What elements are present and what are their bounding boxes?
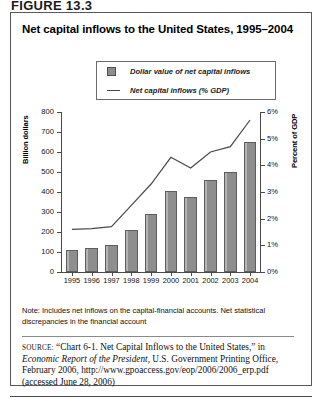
y-tick-label-left: 500: [30, 168, 54, 176]
square-swatch-icon: [107, 67, 122, 76]
y-tick-label-right: 5%: [267, 135, 289, 143]
chart-legend: Dollar value of net capital inflows Net …: [96, 61, 276, 100]
y-tick-label-left: 300: [30, 208, 54, 216]
source-text-1: “Chart 6-1. Net Capital Inflows to the U…: [56, 342, 265, 352]
y-tick-label-right: 3%: [267, 188, 289, 196]
chart-plot: Billion dollars Percent of GDP 010020030…: [22, 106, 302, 296]
y-tick-label-right: 6%: [267, 108, 289, 116]
chart-source: SOURCE: “Chart 6-1. Net Capital Inflows …: [22, 342, 298, 388]
legend-label-bar: Dollar value of net capital inflows: [130, 67, 250, 76]
source-label: SOURCE:: [22, 344, 54, 352]
bottom-rule: [10, 396, 312, 397]
figure-number: FIGURE 13.3: [11, 0, 92, 11]
x-tick-label-2004: 2004: [242, 276, 258, 285]
x-tick-label-1996: 1996: [83, 276, 99, 285]
y-tick-label-left: 700: [30, 128, 54, 136]
y-tick-label-right: 0%: [267, 268, 289, 276]
legend-entry-line: Net capital inflows (% GDP): [97, 81, 275, 100]
source-divider: [22, 336, 294, 337]
y-tick-label-left: 0: [30, 268, 54, 276]
plot-area: 1995199619971998199920002001200220032004: [62, 112, 260, 272]
line-swatch-icon: [107, 90, 122, 91]
line-series-net-capital-inflows-pct-gdp: [62, 112, 260, 273]
chart-note: Note: Includes net inflows on the capita…: [22, 306, 294, 327]
source-italic-title: Economic Report of the President: [22, 354, 148, 364]
y-tick-label-right: 1%: [267, 242, 289, 250]
x-tick-label-2003: 2003: [222, 276, 238, 285]
y-tick-label-left: 200: [30, 228, 54, 236]
x-tick-label-1995: 1995: [64, 276, 80, 285]
legend-entry-bar: Dollar value of net capital inflows: [97, 62, 275, 81]
x-tick-label-1998: 1998: [123, 276, 139, 285]
figure-container: FIGURE 13.3 Net capital inflows to the U…: [0, 0, 323, 405]
y-tick-label-right: 4%: [267, 162, 289, 170]
x-tick-label-1997: 1997: [103, 276, 119, 285]
y-axis-line-right: [260, 112, 261, 273]
y-tick-label-right: 2%: [267, 215, 289, 223]
legend-label-line: Net capital inflows (% GDP): [130, 86, 229, 95]
y-tick-label-left: 600: [30, 148, 54, 156]
chart-title: Net capital inflows to the United States…: [22, 23, 293, 35]
x-tick-label-2000: 2000: [163, 276, 179, 285]
y-axis-title-left: Billion dollars: [21, 115, 30, 164]
y-tick-label-left: 400: [30, 188, 54, 196]
y-tick-label-left: 100: [30, 248, 54, 256]
y-axis-title-right: Percent of GDP: [290, 114, 299, 168]
x-tick-label-1999: 1999: [143, 276, 159, 285]
x-tick-label-2001: 2001: [182, 276, 198, 285]
y-tick-label-left: 800: [30, 108, 54, 116]
x-tick-label-2002: 2002: [202, 276, 218, 285]
